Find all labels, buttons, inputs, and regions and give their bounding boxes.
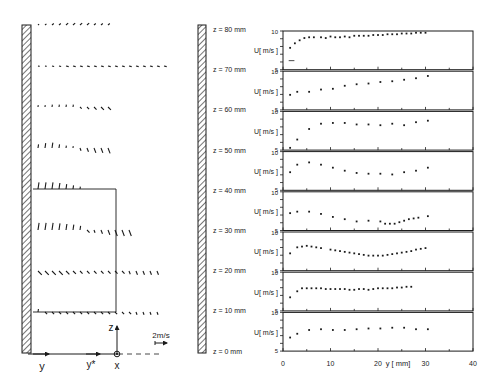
data-point <box>427 120 429 122</box>
data-point <box>427 167 429 169</box>
data-point <box>339 288 341 290</box>
data-point <box>403 220 405 222</box>
data-point <box>427 75 429 77</box>
velocity-vector <box>73 271 76 274</box>
data-point <box>425 247 427 249</box>
velocity-vector <box>143 312 144 315</box>
data-point <box>332 88 334 90</box>
data-point <box>353 252 355 254</box>
velocity-vector <box>45 223 46 230</box>
velocity-vector <box>108 24 110 26</box>
velocity-vector <box>150 312 151 315</box>
velocity-vector <box>38 182 39 189</box>
velocity-vector <box>73 185 74 189</box>
data-point <box>387 33 389 35</box>
velocity-vector <box>129 271 130 274</box>
velocity-vector <box>73 66 76 67</box>
data-point <box>410 250 412 252</box>
panel-label: z = 40 mm <box>213 187 246 194</box>
velocity-vector <box>66 271 69 274</box>
velocity-vector <box>66 66 69 67</box>
velocity-vector <box>45 143 46 148</box>
data-point <box>401 287 403 289</box>
velocity-vector <box>101 148 103 153</box>
y-axis-label: U[ m/s ] <box>254 168 278 176</box>
vector-row-z60 <box>38 105 111 110</box>
data-point <box>294 42 296 44</box>
y-tick-label: 10 <box>271 270 278 276</box>
data-point <box>308 211 310 213</box>
data-point <box>379 328 381 330</box>
data-point <box>332 216 334 218</box>
figure: y y* z x 2m/s 105U[ m/s ]105U[ m/s ]105U… <box>0 0 495 385</box>
data-point <box>415 32 417 34</box>
velocity-vector <box>101 271 104 274</box>
data-point <box>408 218 410 220</box>
velocity-vector <box>38 271 42 275</box>
velocity-vector <box>129 66 132 67</box>
velocity-vector <box>94 24 96 26</box>
data-point <box>377 34 379 36</box>
data-point <box>410 33 412 35</box>
data-point <box>313 36 315 38</box>
data-point <box>296 164 298 166</box>
data-point <box>296 139 298 141</box>
velocity-vector <box>80 23 82 25</box>
data-point <box>410 286 412 288</box>
data-point <box>303 37 305 39</box>
data-point <box>311 287 313 289</box>
data-point <box>306 287 308 289</box>
y-tick-label: 10 <box>271 69 278 75</box>
data-point <box>330 288 332 290</box>
data-point <box>339 36 341 38</box>
velocity-vector <box>87 230 90 233</box>
y-axis-label: U[ m/s ] <box>254 289 278 297</box>
velocity-vector <box>52 223 53 230</box>
data-point <box>356 221 358 223</box>
data-point <box>396 252 398 254</box>
velocity-vector <box>94 148 96 153</box>
y-tick-label: 10 <box>271 150 278 156</box>
velocity-vector <box>115 66 118 67</box>
data-point <box>356 83 358 85</box>
data-point <box>344 218 346 220</box>
data-point <box>420 248 422 250</box>
data-point <box>379 124 381 126</box>
data-point <box>379 173 381 175</box>
x-tick-label: 0 <box>281 360 285 367</box>
profile-panel: 105U[ m/s ] <box>254 29 473 73</box>
data-point <box>296 333 298 335</box>
data-point <box>372 34 374 36</box>
velocity-vector <box>143 66 146 67</box>
velocity-vector <box>80 271 83 274</box>
data-point <box>353 35 355 37</box>
data-point <box>308 329 310 331</box>
panel-label: z = 10 mm <box>213 307 246 314</box>
inner-box-outline <box>33 189 116 312</box>
vector-row-z70 <box>38 66 167 67</box>
data-point <box>391 174 393 176</box>
data-point <box>368 35 370 37</box>
data-point <box>406 251 408 253</box>
data-point <box>325 37 327 39</box>
data-point <box>387 254 389 256</box>
data-point <box>330 249 332 251</box>
data-point <box>384 223 386 225</box>
data-point <box>339 250 341 252</box>
data-point <box>289 212 291 214</box>
data-point <box>368 124 370 126</box>
data-point <box>320 89 322 91</box>
profile-panels: 105U[ m/s ]105U[ m/s ]105U[ m/s ]105U[ m… <box>254 29 473 354</box>
velocity-vector <box>45 271 49 275</box>
data-point <box>356 328 358 330</box>
data-point <box>391 327 393 329</box>
data-point <box>403 171 405 173</box>
data-point <box>332 329 334 331</box>
y-axis-label: U[ m/s ] <box>254 47 278 55</box>
x-tick-label: 20 <box>374 360 382 367</box>
velocity-vector <box>122 312 124 314</box>
data-point <box>296 290 298 292</box>
panel-label: z = 70 mm <box>213 66 246 73</box>
velocity-vector <box>157 66 160 67</box>
data-point <box>308 91 310 93</box>
